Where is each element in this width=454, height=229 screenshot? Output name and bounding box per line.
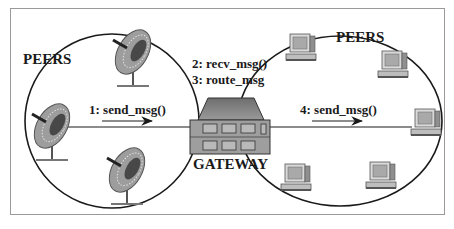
step1-label: 1: send_msg() [89,103,166,116]
step3-label: 3: route_msg [192,73,264,86]
satellite-dish-icon [108,24,158,86]
computer-icon [411,109,441,136]
step2-label: 2: recv_msg() [192,57,267,70]
satellite-dish-icon [102,142,152,204]
network-diagram [0,0,454,229]
gateway-label: GATEWAY [193,157,268,172]
satellite-dish-icon [27,98,77,160]
computer-icon [378,51,408,78]
computer-icon [366,162,396,189]
computer-icon [286,34,316,61]
step4-label: 4: send_msg() [300,103,377,116]
right-peers-label: PEERS [336,30,384,45]
left-peers-label: PEERS [23,52,71,67]
gateway-icon [190,98,270,154]
computer-icon [281,164,311,191]
